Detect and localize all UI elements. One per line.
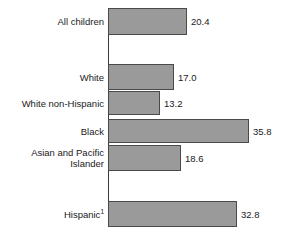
bar-black [108, 119, 249, 143]
bar-all-children [108, 8, 187, 35]
category-label-white-non-hispanic: White non-Hispanic [0, 98, 104, 109]
value-axis-line [108, 8, 109, 227]
bar-white-non-hispanic [108, 91, 160, 115]
category-label-asian-and-pacific-islander: Asian and Pacific Islander [0, 147, 104, 169]
value-label-all-children: 20.4 [191, 16, 210, 27]
bar-hispanic [108, 201, 237, 227]
value-label-white: 17.0 [178, 72, 197, 83]
category-label-black: Black [0, 126, 104, 137]
bar-chart: All children 20.4 White 17.0 White non-H… [0, 0, 287, 236]
value-label-asian-and-pacific-islander: 18.6 [185, 153, 204, 164]
category-label-hispanic: Hispanic1 [0, 209, 104, 220]
bar-white [108, 64, 174, 90]
category-label-white: White [0, 72, 104, 83]
footnote-marker: 1 [100, 207, 104, 214]
value-label-hispanic: 32.8 [241, 209, 260, 220]
value-label-black: 35.8 [253, 126, 272, 137]
bar-asian-and-pacific-islander [108, 145, 181, 171]
value-label-white-non-hispanic: 13.2 [164, 98, 183, 109]
category-label-all-children: All children [0, 16, 104, 27]
